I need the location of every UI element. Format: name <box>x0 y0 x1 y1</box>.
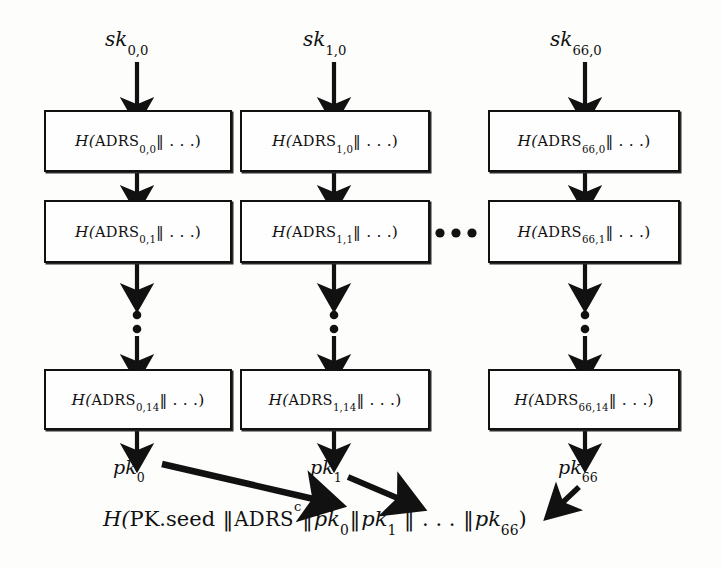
sk-label-col66-text: sk <box>550 27 572 51</box>
adrs-suffix: ‖ . . .) <box>356 391 401 409</box>
adrs-glyph: ADRS <box>292 132 336 149</box>
hash-node-0-1[interactable]: H(ADRS0,1‖ . . .) <box>44 200 232 263</box>
formula-sep-1: ‖ <box>222 507 235 531</box>
hash-node-66-0-text: H(ADRS66,0‖ . . .) <box>518 132 651 150</box>
adrs-glyph: ADRS <box>95 132 139 149</box>
pk-label-66: pk66 <box>558 456 598 478</box>
hash-node-1-14-text: H(ADRS1,14‖ . . .) <box>269 391 402 409</box>
adrs-suffix: ‖ . . .) <box>156 132 201 150</box>
adrs-glyph: ADRS <box>292 223 336 240</box>
hash-node-66-14-text: H(ADRS66,14‖ . . .) <box>514 391 654 409</box>
sk-label-col0-sub: 0,0 <box>127 43 148 58</box>
hash-node-1-0-text: H(ADRS1,0‖ . . .) <box>272 132 398 150</box>
adrs-suffix: ‖ . . .) <box>156 223 201 241</box>
adrs-glyph: ADRS <box>92 391 136 408</box>
hash-node-66-14[interactable]: H(ADRS66,14‖ . . .) <box>488 369 680 430</box>
pk-label-66-text: pk <box>558 456 582 478</box>
pk-label-0: pk0 <box>113 456 145 478</box>
hash-node-66-1[interactable]: H(ADRS66,1‖ . . .) <box>488 200 680 263</box>
sk-label-col0: sk0,0 <box>105 27 148 51</box>
adrs-suffix: ‖ . . .) <box>353 223 398 241</box>
hash-node-1-1[interactable]: H(ADRS1,1‖ . . .) <box>240 200 430 263</box>
formula-pk0: pk <box>314 507 340 531</box>
figure-canvas: sk0,0 sk1,0 sk66,0 H(ADRS0,0‖ . . .) H(A… <box>0 0 721 568</box>
hash-node-66-0[interactable]: H(ADRS66,0‖ . . .) <box>488 110 680 172</box>
hash-fn-glyph: H( <box>72 391 92 409</box>
formula-close: ) <box>519 507 527 531</box>
hash-fn-glyph: H( <box>272 223 292 241</box>
adrs-sub: 0,1 <box>139 234 156 245</box>
hash-fn-glyph: H( <box>269 391 289 409</box>
hash-fn-glyph: H( <box>514 391 534 409</box>
adrs-sub: 66,1 <box>582 234 606 245</box>
adrs-glyph: ADRS <box>538 223 582 240</box>
hash-node-0-14-text: H(ADRS0,14‖ . . .) <box>72 391 205 409</box>
adrs-sub: 66,0 <box>582 144 606 155</box>
adrs-suffix: ‖ . . .) <box>605 223 650 241</box>
sk-label-col1: sk1,0 <box>303 27 346 51</box>
adrs-sub: 1,1 <box>336 234 353 245</box>
formula-pk1: pk <box>361 507 387 531</box>
formula-sep-3: ‖ <box>349 507 362 531</box>
formula-open: H( <box>103 507 130 531</box>
sk-label-col66-sub: 66,0 <box>572 43 601 58</box>
adrs-glyph: ADRS <box>289 391 333 408</box>
hash-fn-glyph: H( <box>272 132 292 150</box>
sk-label-col0-text: sk <box>105 27 127 51</box>
formula-pk66: pk <box>475 507 501 531</box>
connector-layer <box>0 0 721 568</box>
hash-node-0-14[interactable]: H(ADRS0,14‖ . . .) <box>44 369 232 430</box>
formula-adrs-sup: c <box>294 499 301 514</box>
adrs-glyph: ADRS <box>534 391 578 408</box>
adrs-sub: 66,14 <box>579 402 609 413</box>
formula-pk66-sub: 66 <box>501 522 519 538</box>
sk-label-col1-sub: 1,0 <box>325 43 346 58</box>
hash-fn-glyph: H( <box>518 223 538 241</box>
formula-pk1-sub: 1 <box>387 522 396 538</box>
adrs-suffix: ‖ . . .) <box>609 391 654 409</box>
pk-label-1: pk1 <box>310 456 342 478</box>
formula-pk0-sub: 0 <box>340 522 349 538</box>
sk-label-col1-text: sk <box>303 27 325 51</box>
horizontal-ellipsis-dots <box>435 228 476 237</box>
formula-pkseed: PK.seed <box>130 507 216 531</box>
hash-node-0-0[interactable]: H(ADRS0,0‖ . . .) <box>44 110 232 172</box>
hash-node-66-1-text: H(ADRS66,1‖ . . .) <box>518 223 651 241</box>
formula-sep-4: ‖ <box>403 507 416 531</box>
adrs-sub: 0,0 <box>139 144 156 155</box>
pk-label-0-text: pk <box>113 456 137 478</box>
hash-node-1-14[interactable]: H(ADRS1,14‖ . . .) <box>240 369 430 430</box>
hash-node-0-0-text: H(ADRS0,0‖ . . .) <box>75 132 201 150</box>
formula-sep-5: ‖ <box>462 507 475 531</box>
compression-formula: H(PK.seed ‖ADRSc‖pk0‖pk1 ‖ . . . ‖pk66) <box>103 507 527 531</box>
pk-label-1-text: pk <box>310 456 334 478</box>
pk-label-1-sub: 1 <box>334 470 342 485</box>
sk-label-col66: sk66,0 <box>550 27 602 51</box>
formula-mid-ellipsis: . . . <box>422 507 455 531</box>
formula-adrs: ADRS <box>234 508 294 531</box>
adrs-glyph: ADRS <box>538 132 582 149</box>
adrs-suffix: ‖ . . .) <box>159 391 204 409</box>
hash-node-1-1-text: H(ADRS1,1‖ . . .) <box>272 223 398 241</box>
formula-sep-2: ‖ <box>301 507 314 531</box>
adrs-glyph: ADRS <box>95 223 139 240</box>
adrs-sub: 1,0 <box>336 144 353 155</box>
pk-label-0-sub: 0 <box>137 470 145 485</box>
hash-node-1-0[interactable]: H(ADRS1,0‖ . . .) <box>240 110 430 172</box>
adrs-sub: 0,14 <box>136 402 160 413</box>
hash-fn-glyph: H( <box>75 132 95 150</box>
adrs-sub: 1,14 <box>333 402 357 413</box>
adrs-suffix: ‖ . . .) <box>605 132 650 150</box>
adrs-suffix: ‖ . . .) <box>353 132 398 150</box>
hash-fn-glyph: H( <box>518 132 538 150</box>
hash-fn-glyph: H( <box>75 223 95 241</box>
hash-node-0-1-text: H(ADRS0,1‖ . . .) <box>75 223 201 241</box>
pk-label-66-sub: 66 <box>582 470 598 485</box>
